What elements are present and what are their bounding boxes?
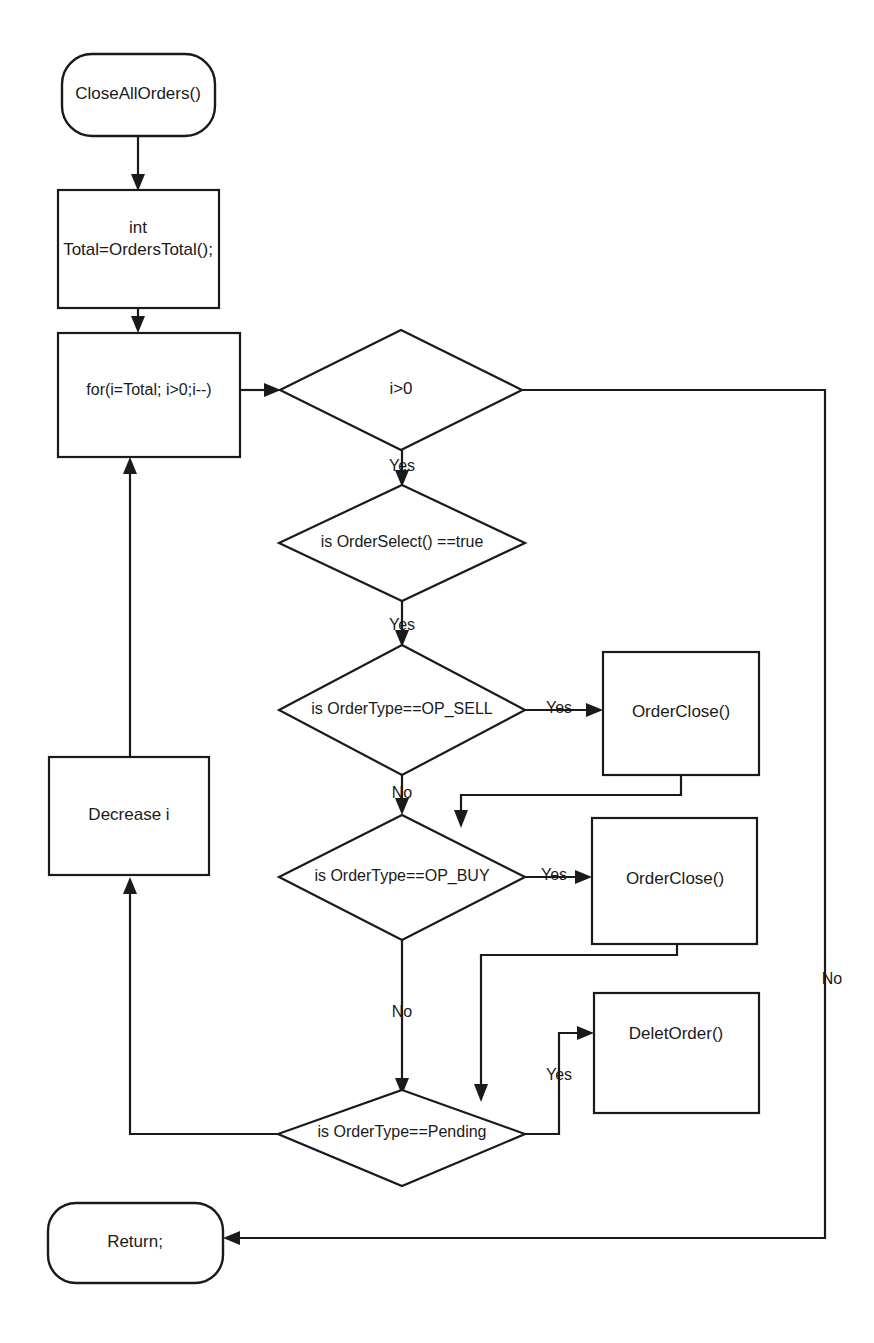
arrow-head-icon (131, 174, 145, 191)
edge-label-op-buy-yes: Yes (541, 866, 567, 883)
arrow-head-icon (123, 457, 137, 474)
edge-label-pending-yes: Yes (546, 1066, 572, 1083)
arrow-head-icon (474, 1084, 488, 1102)
node-cond-i-gt-0-label: i>0 (389, 379, 412, 398)
edge-cond-i-yes-to-order-select: Yes (389, 450, 415, 487)
edge-order-select-yes-to-op-sell: Yes (389, 600, 415, 647)
node-cond-op-sell[interactable]: is OrderType==OP_SELL (279, 645, 525, 775)
arrow-head-icon (123, 877, 137, 894)
edge-label-order-select-yes: Yes (389, 616, 415, 633)
node-end-return[interactable]: Return; (48, 1203, 223, 1283)
flowchart-canvas: No Yes Yes Yes No (0, 0, 874, 1343)
node-for-loop[interactable]: for(i=Total; i>0;i--) (58, 333, 240, 457)
edge-for-to-cond-i (240, 383, 281, 397)
node-cond-order-select-label: is OrderSelect() ==true (321, 533, 484, 550)
edge-label-op-buy-no: No (392, 1003, 413, 1020)
node-order-close-buy-label: OrderClose() (626, 869, 724, 888)
node-cond-pending-label: is OrderType==Pending (318, 1123, 487, 1140)
edge-label-i-gt-0-no: No (822, 970, 843, 987)
node-decrease-i[interactable]: Decrease i (49, 757, 209, 875)
edge-op-sell-yes-to-order-close: Yes (525, 699, 603, 717)
node-delete-order[interactable]: DeletOrder() (594, 993, 759, 1113)
node-end-return-label: Return; (107, 1232, 163, 1251)
node-init-total-line1: int (129, 218, 147, 237)
edge-label-op-sell-yes: Yes (546, 699, 572, 716)
arrow-head-icon (577, 1026, 594, 1040)
node-for-loop-label: for(i=Total; i>0;i--) (86, 381, 211, 398)
edge-op-buy-no-to-pending: No (392, 940, 413, 1095)
edge-label-i-gt-0-yes: Yes (389, 457, 415, 474)
node-cond-op-sell-label: is OrderType==OP_SELL (311, 700, 493, 718)
node-start-label: CloseAllOrders() (75, 84, 201, 103)
node-decrease-i-label: Decrease i (88, 805, 169, 824)
edge-start-to-init (131, 135, 145, 191)
node-cond-pending[interactable]: is OrderType==Pending (278, 1090, 525, 1186)
node-cond-i-gt-0[interactable]: i>0 (280, 330, 522, 450)
node-init-total-line2: Total=OrdersTotal(); (63, 240, 213, 259)
edge-op-sell-no-to-op-buy: No (392, 775, 413, 815)
arrow-head-icon (131, 316, 145, 333)
edge-pending-yes-to-delete-order: Yes (525, 1026, 594, 1134)
node-cond-op-buy-label: is OrderType==OP_BUY (314, 867, 490, 885)
edge-op-buy-yes-to-order-close: Yes (525, 866, 592, 884)
edge-label-op-sell-no: No (392, 784, 413, 801)
node-order-close-sell[interactable]: OrderClose() (603, 652, 759, 775)
edge-decrease-i-to-for (123, 457, 137, 757)
edge-pending-to-decrease-i (123, 877, 278, 1134)
node-cond-order-select[interactable]: is OrderSelect() ==true (279, 485, 525, 601)
arrow-head-icon (575, 870, 592, 884)
flowchart-svg: No Yes Yes Yes No (0, 0, 874, 1343)
arrow-head-icon (586, 703, 603, 717)
node-start[interactable]: CloseAllOrders() (62, 54, 215, 136)
arrow-head-icon (223, 1231, 240, 1245)
arrow-head-icon (454, 810, 468, 828)
node-order-close-buy[interactable]: OrderClose() (592, 818, 757, 944)
node-delete-order-label: DeletOrder() (629, 1024, 723, 1043)
node-init-total[interactable]: int Total=OrdersTotal(); (58, 190, 219, 308)
edge-init-to-for (131, 308, 145, 333)
node-order-close-sell-label: OrderClose() (632, 702, 730, 721)
node-cond-op-buy[interactable]: is OrderType==OP_BUY (279, 815, 525, 940)
